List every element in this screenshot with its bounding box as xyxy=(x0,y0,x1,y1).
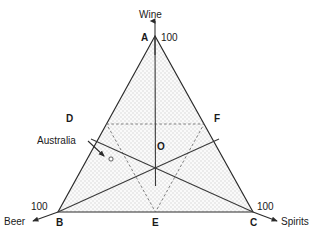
beer-axis-label: Beer xyxy=(4,216,26,227)
midpoint-label-d: D xyxy=(66,113,73,124)
centroid-label-o: O xyxy=(157,141,165,152)
vertex-label-c: C xyxy=(250,217,257,228)
wine-axis-label: Wine xyxy=(139,9,162,20)
beer-axis-arrow xyxy=(33,212,58,221)
spirits-axis-label: Spirits xyxy=(281,216,309,227)
midpoint-label-e: E xyxy=(152,217,159,228)
vertex-label-a: A xyxy=(141,32,148,43)
wine-scale-max: 100 xyxy=(161,32,178,43)
ternary-diagram-figure: Wine Beer Spirits 100 100 100 A B C D E … xyxy=(0,0,319,236)
beer-scale-max: 100 xyxy=(31,201,48,212)
median-line-a-e xyxy=(155,36,156,186)
australia-annotation-label: Australia xyxy=(37,135,76,146)
ternary-diagram-svg: Wine Beer Spirits 100 100 100 A B C D E … xyxy=(0,0,319,236)
australia-data-point-marker[interactable] xyxy=(109,157,113,161)
midpoint-label-f: F xyxy=(214,113,220,124)
vertex-label-b: B xyxy=(56,217,63,228)
spirits-scale-max: 100 xyxy=(257,201,274,212)
